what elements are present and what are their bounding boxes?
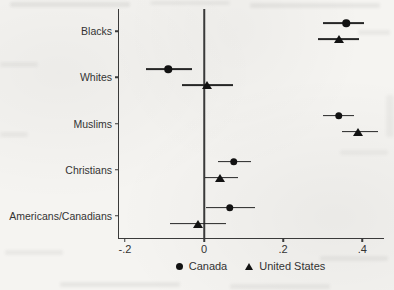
marker-circle-icon [165, 66, 173, 74]
legend: CanadaUnited States [118, 260, 383, 272]
category-label: Blacks [81, 25, 112, 37]
y-axis-tick [115, 215, 119, 217]
legend-item: Canada [176, 260, 228, 272]
marker-circle-icon [226, 204, 234, 212]
x-axis-tick [124, 238, 126, 242]
category-label: Christians [65, 164, 112, 176]
plot-area: -.20.2.4BlacksWhitesMuslimsChristiansAme… [118, 9, 384, 239]
scan-bleed-artifact [0, 62, 38, 67]
marker-triangle-icon [202, 81, 212, 89]
x-axis-tick [203, 238, 205, 242]
scan-bleed-artifact [150, 1, 230, 5]
x-axis-tick-label: 0 [201, 243, 207, 255]
category-label: Americans/Canadians [9, 210, 112, 222]
x-axis-tick-label: .4 [358, 243, 367, 255]
y-axis-tick [115, 123, 119, 125]
marker-triangle-icon [353, 128, 363, 136]
marker-circle-icon [230, 158, 238, 166]
scan-bleed-artifact [10, 2, 130, 7]
x-axis-tick [282, 238, 284, 242]
y-axis-tick [115, 31, 119, 33]
zero-reference-line [203, 9, 205, 238]
marker-circle-icon [343, 20, 351, 28]
marker-triangle-icon [215, 174, 225, 182]
y-axis-tick [115, 77, 119, 79]
legend-label: United States [259, 260, 325, 272]
marker-circle-icon [335, 112, 343, 120]
legend-triangle-icon [245, 263, 253, 270]
marker-triangle-icon [334, 35, 344, 43]
marker-triangle-icon [193, 220, 203, 228]
x-axis-tick-label: -.2 [119, 243, 132, 255]
scanned-figure-page: -.20.2.4BlacksWhitesMuslimsChristiansAme… [0, 0, 394, 290]
legend-circle-icon [176, 263, 183, 270]
legend-label: Canada [189, 260, 228, 272]
scan-bleed-artifact [0, 132, 28, 137]
x-axis-tick-label: .2 [279, 243, 288, 255]
scan-bleed-artifact [5, 250, 63, 255]
legend-item: United States [245, 260, 325, 272]
scan-bleed-artifact [250, 3, 380, 8]
scan-bleed-artifact [386, 95, 394, 137]
category-label: Muslims [74, 118, 113, 130]
y-axis-tick [115, 169, 119, 171]
category-label: Whites [80, 71, 112, 83]
scan-bleed-artifact [60, 282, 180, 287]
scan-bleed-artifact [230, 284, 330, 289]
x-axis-tick [361, 238, 363, 242]
